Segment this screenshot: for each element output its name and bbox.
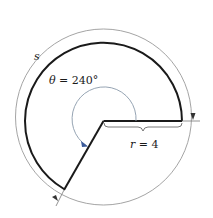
sector-arc xyxy=(25,43,182,189)
extension-tick-lower-left xyxy=(56,190,64,206)
arc-label-s: s xyxy=(34,50,40,63)
radius-label: r = 4 xyxy=(130,138,158,151)
radius-lower-left xyxy=(64,121,104,190)
arc-length-diagram: s θ = 240° r = 4 xyxy=(0,0,213,218)
radius-brace xyxy=(104,123,182,131)
outer-reference-circle xyxy=(16,29,192,205)
angle-arc xyxy=(72,87,136,146)
angle-label: θ = 240° xyxy=(49,74,98,87)
angle-arrowhead-icon xyxy=(81,141,88,147)
arc-arrowhead-lower-left xyxy=(52,195,58,201)
